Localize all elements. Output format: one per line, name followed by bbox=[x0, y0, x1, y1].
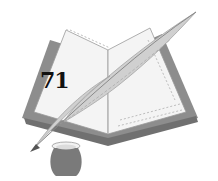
illustration-canvas: 71 bbox=[0, 0, 218, 181]
inkwell bbox=[50, 142, 81, 176]
book-quill-inkwell-illustration bbox=[0, 0, 218, 181]
number-label: 71 bbox=[40, 69, 69, 91]
